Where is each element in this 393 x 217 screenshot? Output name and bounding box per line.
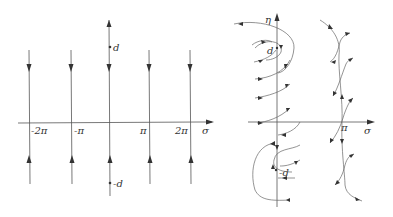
point-minus-d <box>109 182 112 185</box>
down-arrow-icon <box>188 64 193 72</box>
up-arrow-icon <box>148 155 153 163</box>
upper-trajectories <box>234 22 294 125</box>
up-arrow-icon <box>70 155 75 163</box>
eta-label: η <box>265 14 271 25</box>
right-arrow-icon <box>206 120 214 125</box>
point-d <box>109 46 112 49</box>
down-arrow-icon <box>107 64 112 72</box>
phase-portraits: d -d -2π -π π 2π σ σ η π d -d <box>0 0 393 217</box>
down-arrow-icon <box>147 64 152 72</box>
tick-pi: π <box>139 125 147 136</box>
left-sigma-label: σ <box>202 125 210 136</box>
right-phase-portrait: σ η π d -d <box>234 13 375 207</box>
tick-minus-pi: -π <box>74 125 84 136</box>
down-arrow-icon <box>27 64 32 72</box>
label-minus-d: -d <box>279 167 289 178</box>
up-arrow-icon <box>108 155 113 163</box>
right-sigma-label: σ <box>364 125 372 136</box>
up-arrow-icon <box>107 20 112 27</box>
right-arrow-icon <box>367 120 375 125</box>
left-phase-portrait: d -d -2π -π π 2π σ <box>18 20 214 196</box>
left-sigma-axis <box>18 122 200 123</box>
up-arrow-icon <box>27 155 32 163</box>
up-arrow-icon <box>189 155 194 163</box>
label-d: d <box>113 42 119 53</box>
point-d <box>276 47 278 49</box>
down-arrow-icon <box>69 64 74 72</box>
lower-trajectories <box>253 122 300 202</box>
up-arrow-icon <box>275 13 280 21</box>
pi-column-trajectories <box>320 20 362 201</box>
tick-2pi: 2π <box>174 125 188 136</box>
tick-minus-2pi: -2π <box>31 125 48 136</box>
label-minus-d: -d <box>113 178 123 189</box>
point-minus-d <box>275 169 277 171</box>
